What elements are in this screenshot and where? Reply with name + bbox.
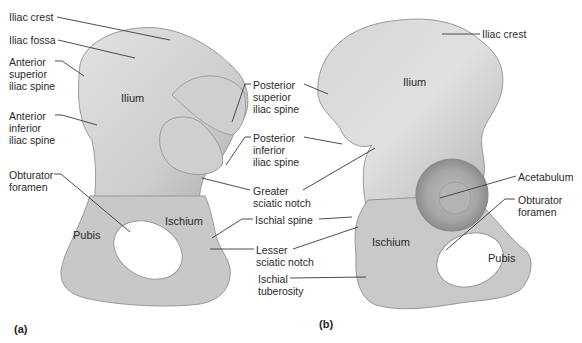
label-iliac-crest-a: Iliac crest — [9, 11, 53, 23]
label-posterior-superior-iliac-spine: Posterior superior iliac spine — [253, 79, 299, 115]
label-obturator-foramen-a: Obturator foramen — [9, 169, 53, 193]
leader-ischial-spine-b — [319, 217, 352, 219]
region-ischium-b: Ischium — [372, 236, 410, 248]
leader-ischial-spine-a — [212, 219, 253, 238]
label-acetabulum: Acetabulum — [518, 171, 573, 183]
panel-label-a: (a) — [14, 323, 27, 335]
panel-label-b: (b) — [319, 318, 333, 330]
region-pubis-b: Pubis — [488, 252, 516, 264]
region-ilium-a: Ilium — [121, 92, 144, 104]
label-anterior-superior-iliac-spine: Anterior superior iliac spine — [9, 56, 55, 92]
label-greater-sciatic-notch: Greater sciatic notch — [253, 185, 311, 209]
acetabular-fossa-shape — [439, 182, 471, 214]
label-ischial-spine: Ischial spine — [255, 214, 313, 226]
label-posterior-inferior-iliac-spine: Posterior inferior iliac spine — [253, 132, 299, 168]
label-iliac-crest-b: Iliac crest — [482, 28, 526, 40]
label-lesser-sciatic-notch: Lesser sciatic notch — [256, 244, 314, 268]
leader-piis-b — [304, 137, 342, 144]
label-anterior-inferior-iliac-spine: Anterior inferior iliac spine — [9, 110, 55, 146]
leader-gsn-a — [202, 178, 250, 190]
panel-a-bone — [61, 28, 248, 306]
label-ischial-tuberosity: Ischial tuberosity — [258, 273, 304, 297]
label-obturator-foramen-b: Obturator foramen — [518, 194, 562, 218]
region-ilium-b: Ilium — [403, 76, 426, 88]
label-iliac-fossa-a: Iliac fossa — [9, 34, 56, 46]
panel-b-bone — [318, 19, 531, 309]
region-pubis-a: Pubis — [73, 229, 101, 241]
region-ischium-a: Ischium — [165, 215, 203, 227]
